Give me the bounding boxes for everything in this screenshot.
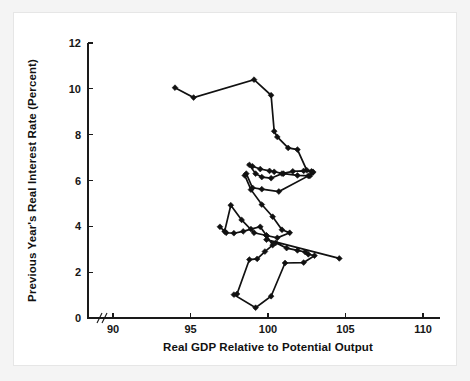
data-point-marker [231, 230, 237, 236]
data-point-marker [295, 173, 301, 179]
x-tick-label-100: 100 [259, 323, 277, 335]
axis-spine [88, 43, 440, 318]
x-tick-label-90: 90 [107, 323, 119, 335]
data-point-marker [271, 169, 277, 175]
data-point-marker [267, 168, 273, 174]
y-tick-label-4: 4 [75, 220, 82, 232]
data-point-marker [247, 257, 253, 263]
x-tick-label-95: 95 [184, 323, 196, 335]
y-tick-label-0: 0 [75, 312, 81, 324]
data-point-marker [259, 186, 265, 192]
x-tick-label-105: 105 [336, 323, 354, 335]
data-point-marker [290, 168, 296, 174]
data-series-group [172, 77, 342, 311]
x-tick-label-110: 110 [414, 323, 432, 335]
y-tick-label-6: 6 [75, 175, 81, 187]
y-tick-label-10: 10 [69, 83, 81, 95]
data-point-marker [240, 228, 246, 234]
data-point-marker [274, 235, 280, 241]
axis-labels-group: 0246810129095100105110Real GDP Relative … [26, 37, 432, 353]
axes-group [88, 43, 440, 323]
data-point-marker [287, 230, 293, 236]
data-point-marker [336, 256, 342, 262]
y-tick-label-2: 2 [75, 266, 81, 278]
data-point-marker [257, 166, 263, 172]
data-point-marker [268, 175, 274, 181]
data-point-marker [295, 147, 301, 153]
y-tick-label-8: 8 [75, 129, 81, 141]
series-line-0 [175, 80, 339, 308]
figure-container: 0246810129095100105110Real GDP Relative … [0, 0, 470, 381]
data-point-marker [282, 260, 288, 266]
y-tick-label-12: 12 [69, 37, 81, 49]
y-axis-title: Previous Year's Real Interest Rate (Perc… [26, 59, 38, 302]
x-axis-title: Real GDP Relative to Potential Output [163, 341, 373, 353]
scatter-line-chart: 0246810129095100105110Real GDP Relative … [0, 0, 470, 381]
